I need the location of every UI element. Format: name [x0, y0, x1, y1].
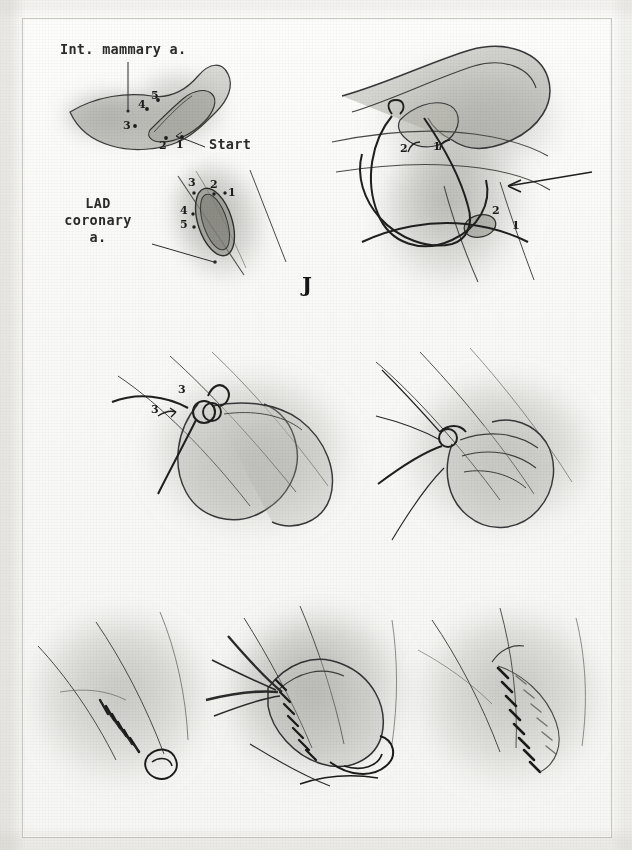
suture-number-panel3-upper-2: 2 — [400, 142, 408, 155]
suture-number-lad-2: 2 — [210, 178, 218, 191]
label-lad-line1: LAD — [63, 196, 133, 212]
suture-number-ima-2: 2 — [159, 139, 167, 152]
suture-number-lad-4: 4 — [180, 204, 188, 217]
suture-number-ima-3: 3 — [123, 119, 131, 132]
label-start: Start — [209, 137, 251, 153]
suture-number-panel3-upper-1: 1 — [433, 140, 441, 153]
label-lad-line3: a. — [63, 230, 133, 246]
suture-number-panel4-upper-3: 3 — [178, 383, 186, 396]
suture-number-panel3-lower-1: 1 — [512, 219, 520, 232]
label-internal-mammary-artery: Int. mammary a. — [60, 42, 186, 58]
label-lad-line2: coronary — [52, 213, 144, 229]
illustration-plate: Int. mammary a. Start LAD coronary a. 1 … — [0, 0, 632, 850]
label-layer: Int. mammary a. Start LAD coronary a. 1 … — [0, 0, 632, 850]
suture-number-ima-4: 4 — [138, 98, 146, 111]
suture-number-lad-1: 1 — [228, 186, 236, 199]
suture-number-panel4-lower-3: 3 — [151, 403, 159, 416]
plate-letter: J — [302, 272, 312, 297]
suture-number-lad-5: 5 — [180, 218, 188, 231]
suture-number-ima-1: 1 — [176, 138, 184, 151]
suture-number-ima-5: 5 — [151, 89, 159, 102]
suture-number-panel3-lower-2: 2 — [492, 204, 500, 217]
suture-number-lad-3: 3 — [188, 176, 196, 189]
